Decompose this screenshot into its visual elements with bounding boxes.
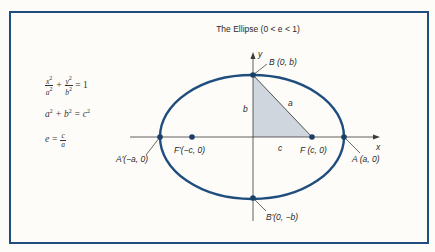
point-F (309, 134, 315, 140)
point-B-prime (250, 195, 256, 201)
y-axis-label: y (257, 49, 263, 59)
point-A-prime (157, 134, 163, 140)
label-F-prime: F′(−c, 0) (174, 145, 205, 155)
label-segment-a: a (288, 98, 293, 108)
point-B (250, 72, 256, 78)
label-A-prime: A′(−a, 0) (115, 154, 148, 164)
y-axis-arrow-icon (251, 52, 256, 59)
label-segment-c: c (278, 143, 283, 153)
point-A (341, 134, 347, 140)
equation-eccentricity: e = ca (45, 132, 66, 148)
ellipse-diagram: The Ellipse (0 < e < 1) y x B (0, b) A′(… (0, 0, 435, 252)
equation-standard-form: x2a2 + y2b2 = 1 (45, 75, 88, 96)
point-F-prime (189, 134, 195, 140)
label-A: A (a, 0) (351, 154, 380, 164)
leader-A (344, 137, 360, 153)
leader-A-prime (146, 137, 160, 155)
label-segment-b: b (243, 104, 248, 114)
equation-abc-relation: a2 + b2 = c2 (45, 108, 90, 119)
x-axis-label: x (375, 142, 381, 152)
label-F: F (c, 0) (300, 145, 327, 155)
label-B: B (0, b) (269, 57, 297, 67)
label-B-prime: B′(0, −b) (266, 212, 298, 222)
x-axis-arrow-icon (373, 135, 380, 140)
diagram-title: The Ellipse (0 < e < 1) (216, 24, 300, 34)
